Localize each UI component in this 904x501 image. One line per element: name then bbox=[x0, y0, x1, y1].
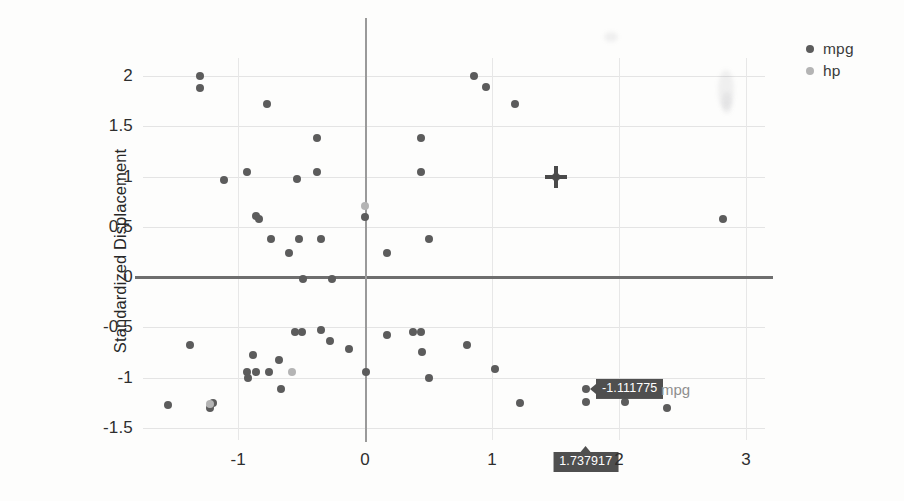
y-axis-tick-label: 2 bbox=[123, 66, 133, 86]
gridline-horizontal bbox=[143, 428, 765, 429]
chart-legend: mpghp bbox=[806, 38, 854, 82]
legend-item-label: hp bbox=[823, 62, 841, 80]
legend-item-label: mpg bbox=[823, 40, 854, 58]
data-point-mpg[interactable] bbox=[265, 368, 273, 376]
gridline-vertical bbox=[746, 58, 747, 440]
gridline-horizontal bbox=[143, 227, 765, 228]
data-point-mpg[interactable] bbox=[196, 72, 204, 80]
data-point-mpg[interactable] bbox=[186, 341, 194, 349]
data-point-mpg[interactable] bbox=[244, 374, 252, 382]
data-point-mpg[interactable] bbox=[313, 134, 321, 142]
data-point-mpg[interactable] bbox=[220, 176, 228, 184]
y-axis-tick-label: -1.5 bbox=[103, 418, 133, 438]
gridline-horizontal bbox=[143, 76, 765, 77]
data-point-mpg[interactable] bbox=[418, 348, 426, 356]
data-point-mpg[interactable] bbox=[298, 328, 306, 336]
tooltip-x-value-text: 1.737917 bbox=[559, 454, 612, 468]
y-axis-tick-label: 0 bbox=[123, 267, 133, 287]
data-point-mpg[interactable] bbox=[383, 249, 391, 257]
y-axis-tick-label: 1 bbox=[123, 167, 133, 187]
data-point-mpg[interactable] bbox=[313, 168, 321, 176]
x-axis-tick-label: 1 bbox=[487, 450, 497, 470]
data-point-mpg[interactable] bbox=[317, 235, 325, 243]
x-axis-tick-label: 2 bbox=[614, 450, 624, 470]
chart-canvas: Standardized Displacement -1.111775mpg1.… bbox=[0, 0, 904, 501]
data-point-mpg[interactable] bbox=[164, 401, 172, 409]
data-point-hp[interactable] bbox=[288, 368, 296, 376]
data-point-mpg[interactable] bbox=[249, 351, 257, 359]
data-point-mpg[interactable] bbox=[470, 72, 478, 80]
data-point-mpg[interactable] bbox=[326, 337, 334, 345]
gridline-horizontal bbox=[143, 327, 765, 328]
data-point-mpg[interactable] bbox=[361, 213, 369, 221]
y-axis-tick-label: -0.5 bbox=[103, 317, 133, 337]
data-point-mpg[interactable] bbox=[719, 215, 727, 223]
legend-dot-icon bbox=[806, 67, 814, 75]
data-point-mpg[interactable] bbox=[425, 374, 433, 382]
data-point-mpg[interactable] bbox=[425, 235, 433, 243]
data-point-mpg[interactable] bbox=[299, 275, 307, 283]
gridline-vertical bbox=[492, 58, 493, 440]
data-point-mpg[interactable] bbox=[582, 398, 590, 406]
data-point-mpg[interactable] bbox=[463, 341, 471, 349]
tooltip-series-label: mpg bbox=[661, 380, 690, 397]
data-point-mpg[interactable] bbox=[255, 215, 263, 223]
data-point-mpg[interactable] bbox=[511, 100, 519, 108]
data-point-mpg[interactable] bbox=[285, 249, 293, 257]
crosshair-marker-icon[interactable] bbox=[545, 166, 567, 188]
y-axis-tick-label: -1 bbox=[117, 368, 133, 388]
data-point-mpg[interactable] bbox=[275, 356, 283, 364]
x-axis-tick-label: 0 bbox=[360, 450, 370, 470]
y-axis-tick-label: 1.5 bbox=[109, 116, 133, 136]
data-point-mpg[interactable] bbox=[417, 328, 425, 336]
data-point-mpg[interactable] bbox=[277, 385, 285, 393]
data-point-mpg[interactable] bbox=[582, 385, 590, 393]
gridline-horizontal bbox=[143, 126, 765, 127]
tooltip-x-value: 1.737917 bbox=[553, 452, 618, 472]
legend-dot-icon bbox=[806, 45, 814, 53]
y-axis-zero-line bbox=[365, 18, 367, 442]
data-point-mpg[interactable] bbox=[252, 368, 260, 376]
gridline-vertical bbox=[238, 58, 239, 440]
tooltip-y-value-text: -1.111775 bbox=[602, 381, 657, 395]
gridline-horizontal bbox=[143, 177, 765, 178]
x-axis-tick-label: -1 bbox=[230, 450, 246, 470]
data-point-mpg[interactable] bbox=[417, 134, 425, 142]
data-point-mpg[interactable] bbox=[267, 235, 275, 243]
x-axis-tick-label: 3 bbox=[741, 450, 751, 470]
data-point-mpg[interactable] bbox=[293, 175, 301, 183]
data-point-mpg[interactable] bbox=[417, 168, 425, 176]
data-point-mpg[interactable] bbox=[383, 331, 391, 339]
data-point-mpg[interactable] bbox=[263, 100, 271, 108]
data-point-mpg[interactable] bbox=[362, 368, 370, 376]
y-axis-tick-label: 0.5 bbox=[109, 217, 133, 237]
data-point-mpg[interactable] bbox=[295, 235, 303, 243]
data-point-mpg[interactable] bbox=[621, 398, 629, 406]
data-point-mpg[interactable] bbox=[317, 326, 325, 334]
data-point-mpg[interactable] bbox=[482, 83, 490, 91]
plot-area[interactable]: -1.111775mpg1.737917 bbox=[143, 58, 765, 440]
data-point-hp[interactable] bbox=[206, 400, 214, 408]
legend-item-mpg[interactable]: mpg bbox=[806, 38, 854, 60]
data-point-mpg[interactable] bbox=[328, 275, 336, 283]
gridline-horizontal bbox=[143, 378, 765, 379]
tooltip-caret-icon bbox=[581, 446, 591, 452]
x-axis-zero-line bbox=[135, 276, 773, 279]
data-point-mpg[interactable] bbox=[516, 399, 524, 407]
tooltip-y-value: -1.111775 bbox=[596, 379, 663, 399]
data-point-mpg[interactable] bbox=[196, 84, 204, 92]
legend-item-hp[interactable]: hp bbox=[806, 60, 854, 82]
data-point-mpg[interactable] bbox=[243, 168, 251, 176]
tooltip-caret-icon bbox=[590, 384, 596, 394]
data-point-mpg[interactable] bbox=[663, 404, 671, 412]
data-point-mpg[interactable] bbox=[491, 365, 499, 373]
scan-artifact bbox=[604, 32, 618, 42]
data-point-mpg[interactable] bbox=[345, 345, 353, 353]
data-point-hp[interactable] bbox=[361, 202, 369, 210]
